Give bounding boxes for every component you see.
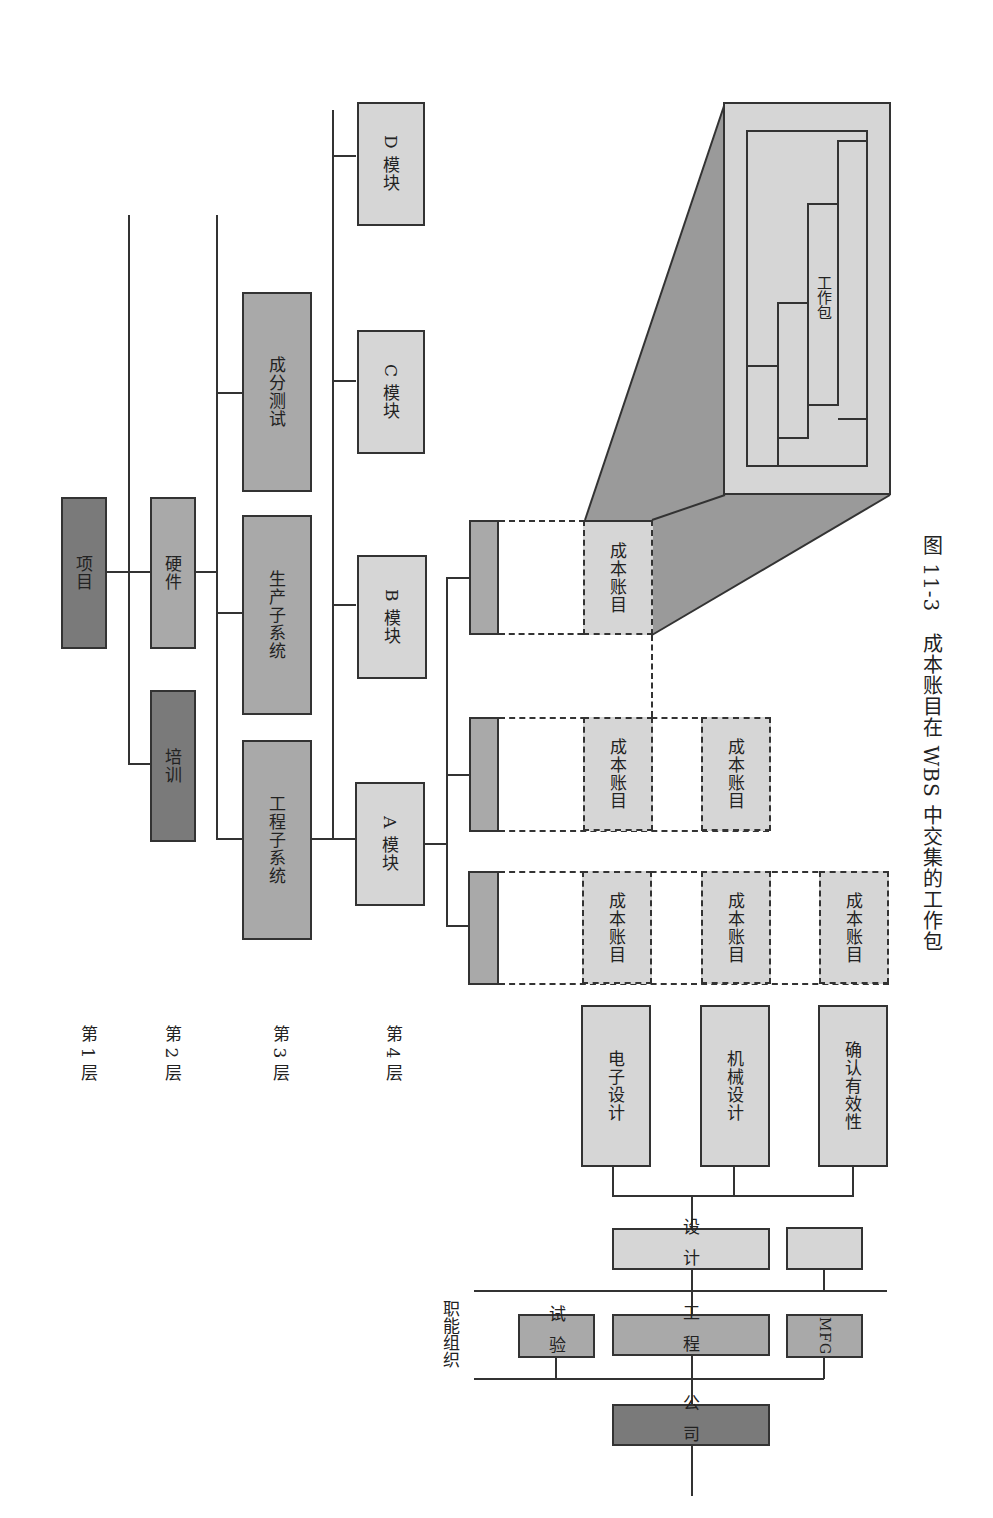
figure-caption: 图 11-3 成本账目在 WBS 中交集的工作包 bbox=[917, 535, 946, 952]
functional-org-label: 职能组织 bbox=[438, 1300, 463, 1368]
org-test: 试验 bbox=[518, 1314, 595, 1358]
org-mechanical-design: 机械设计 bbox=[700, 1005, 770, 1167]
org-design: 设计 bbox=[612, 1228, 770, 1270]
work-package-label: 工作包 bbox=[813, 275, 834, 320]
org-company: 公司 bbox=[612, 1404, 770, 1446]
org-mfg: MFG bbox=[786, 1314, 863, 1358]
org-electronic-design: 电子设计 bbox=[581, 1005, 651, 1167]
org-mfg-sub bbox=[786, 1227, 863, 1270]
org-engineering: 工程 bbox=[612, 1314, 770, 1356]
wbs-diagram: 第 1 层 第 2 层 第 3 层 第 4 层 项目 硬件 培训 工程子系统 生… bbox=[0, 0, 993, 1518]
org-validation: 确认有效性 bbox=[818, 1005, 888, 1167]
